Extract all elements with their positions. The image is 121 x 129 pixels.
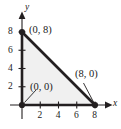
x-tick-label-8: 8 [92,111,97,121]
x-axis-arrowhead [105,102,113,109]
vertex-marker-top [19,29,25,35]
vertex-label-top: (0, 8) [29,25,52,36]
triangle-region-figure: y x 2 4 6 8 2 4 6 8 (0, 8) (0, 0) (8, 0) [0,0,121,129]
y-tick-label-6: 6 [8,46,13,56]
y-axis-arrowhead [19,12,26,20]
y-tick-label-2: 2 [8,82,13,92]
vertex-marker-right [92,102,98,108]
x-axis-label: x [113,99,117,109]
vertex-marker-origin [19,102,25,108]
vertex-label-right: (8, 0) [75,69,98,80]
y-tick-label-8: 8 [8,27,13,37]
x-tick-label-2: 2 [38,111,43,121]
x-tick-label-4: 4 [56,111,61,121]
y-axis-label: y [25,3,29,13]
vertex-label-origin: (0, 0) [30,82,53,93]
x-tick-label-6: 6 [74,111,79,121]
y-tick-label-4: 4 [8,64,13,74]
